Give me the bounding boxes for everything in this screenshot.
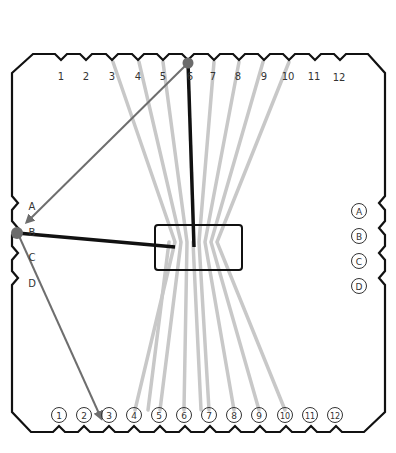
- right-labels: [352, 204, 367, 294]
- right-label-a: A: [356, 207, 363, 217]
- top-label-3: 3: [109, 71, 115, 82]
- top-label-7: 7: [210, 71, 216, 82]
- bottom-label-9: 9: [256, 411, 262, 421]
- left-label-a: A: [29, 201, 36, 212]
- arrow-top-to-left: [27, 65, 186, 222]
- bottom-label-3: 3: [106, 411, 112, 421]
- top-label-8: 8: [235, 71, 241, 82]
- arrow-left-to-bottom: [19, 236, 101, 418]
- bottom-label-4: 4: [131, 411, 137, 421]
- light-threads: [113, 62, 289, 410]
- bottom-label-7: 7: [206, 411, 212, 421]
- top-label-5: 5: [160, 71, 166, 82]
- top-label-4: 4: [135, 71, 141, 82]
- top-label-2: 2: [83, 71, 89, 82]
- bottom-label-10: 10: [280, 412, 290, 421]
- top-label-9: 9: [261, 71, 267, 82]
- bottom-circles: [52, 408, 343, 423]
- bottom-label-5: 5: [156, 411, 162, 421]
- top-labels: 1 2 3 4 5 6 7 8 9 10 11 12: [58, 71, 346, 83]
- bottom-label-8: 8: [231, 411, 237, 421]
- top-label-10: 10: [282, 71, 295, 82]
- bottom-label-6: 6: [181, 411, 187, 421]
- right-label-c: C: [356, 257, 362, 267]
- bottom-label-2: 2: [81, 411, 87, 421]
- bottom-label-1: 1: [56, 411, 62, 421]
- dark-thread-vertical: [188, 62, 194, 247]
- right-label-b: B: [356, 232, 362, 242]
- left-label-d: D: [28, 278, 36, 289]
- dark-thread-horizontal: [17, 233, 175, 247]
- top-label-1: 1: [58, 71, 64, 82]
- top-label-12: 12: [333, 72, 346, 83]
- pivot-top-icon: [183, 58, 194, 69]
- pivot-left-icon: [11, 227, 23, 239]
- card-weaving-diagram: 1 2 3 4 5 6 7 8 9 10 11 12 A B C D A B C…: [0, 0, 396, 453]
- bottom-label-12: 12: [330, 412, 340, 421]
- left-label-b: B: [29, 227, 36, 238]
- top-label-6: 6: [187, 71, 193, 82]
- top-label-11: 11: [308, 71, 321, 82]
- left-label-c: C: [29, 252, 36, 263]
- right-label-d: D: [356, 282, 363, 292]
- thread-x: [148, 242, 169, 410]
- bottom-label-11: 11: [305, 412, 315, 421]
